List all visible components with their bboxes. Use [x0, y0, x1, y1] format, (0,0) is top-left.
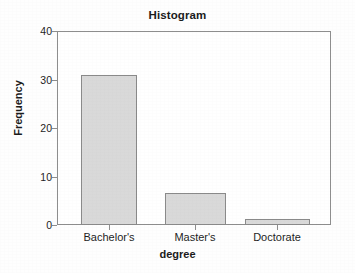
y-axis-tick-label: 20: [26, 123, 52, 133]
x-axis-tick-mark: [109, 225, 110, 230]
plot-area: [57, 31, 331, 225]
y-axis-tick-label: 30: [26, 75, 52, 85]
y-axis-tick-labels: 403020100: [22, 31, 52, 225]
x-axis-label: degree: [0, 248, 355, 260]
x-axis-tick-label: Master's: [174, 231, 215, 243]
y-axis-tick-label: 10: [26, 172, 52, 182]
bar: [81, 75, 137, 225]
chart-title: Histogram: [0, 9, 355, 21]
histogram-figure: Histogram 403020100 Frequency Bachelor's…: [0, 0, 355, 273]
x-axis-tick-label: Bachelor's: [83, 231, 134, 243]
bar: [165, 193, 226, 225]
y-axis-label: Frequency: [12, 68, 24, 148]
y-axis-tick-label: 40: [26, 26, 52, 36]
x-axis-tick-mark: [277, 225, 278, 230]
x-axis-tick-labels: Bachelor'sMaster'sDoctorate: [0, 231, 355, 247]
x-axis-tick-mark: [195, 225, 196, 230]
x-axis-tick-label: Doctorate: [253, 231, 301, 243]
